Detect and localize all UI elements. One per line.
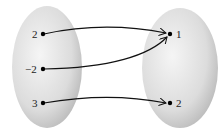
mapping-diagram: 2 −2 3 1 2	[0, 0, 219, 129]
domain-label-2: 2	[32, 28, 38, 40]
domain-point-neg2	[41, 67, 45, 71]
range-set-oval	[142, 8, 218, 128]
domain-set-oval	[12, 6, 82, 128]
domain-label-3: 3	[32, 97, 38, 109]
domain-point-3	[41, 101, 45, 105]
range-point-2	[168, 101, 172, 105]
range-label-2: 2	[176, 97, 182, 109]
domain-point-2	[41, 32, 45, 36]
range-label-1: 1	[176, 28, 182, 40]
domain-label-neg2: −2	[25, 63, 37, 75]
range-point-1	[168, 32, 172, 36]
